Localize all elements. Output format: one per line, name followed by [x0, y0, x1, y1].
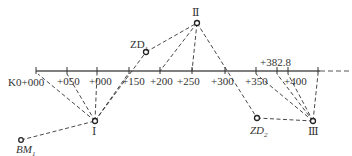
benchmark-BM1-marker: [19, 138, 24, 143]
station-label: +350: [245, 75, 268, 87]
station-label: +050: [57, 75, 80, 87]
point-I-label: Ⅰ: [92, 125, 96, 137]
station-label: +250: [177, 75, 200, 87]
station-label: +000: [89, 75, 112, 87]
station-label: +150: [122, 75, 145, 87]
benchmark-BM1-label: BM1: [16, 143, 35, 156]
turning-point-ZD2-marker: [255, 116, 260, 121]
station-label: +200: [150, 75, 173, 87]
turning-point-ZD1-label: ZD1: [130, 38, 149, 53]
station-label: +300: [211, 75, 234, 87]
point-I-marker: [93, 119, 98, 124]
leveling-diagram: K0+000 +050 +000 +150 +200 +250 +300 +35…: [0, 0, 352, 156]
turning-point-ZD2-label: ZD2: [250, 124, 268, 139]
point-III-label: Ⅲ: [308, 125, 319, 137]
station-label: +400: [284, 75, 307, 87]
point-II-label: Ⅱ: [192, 6, 199, 18]
point-III-marker: [311, 119, 316, 124]
station-label: +382.8: [260, 56, 291, 68]
station-label: K0+000: [8, 76, 45, 88]
point-II-marker: [195, 21, 200, 26]
